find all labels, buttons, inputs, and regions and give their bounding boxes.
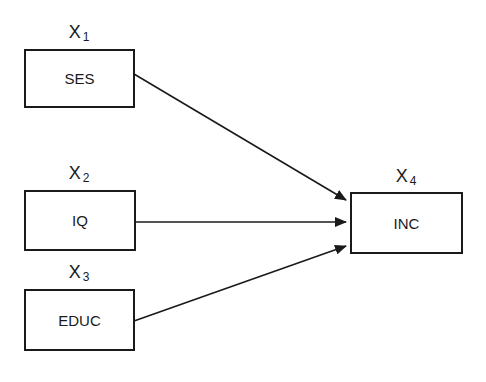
var-subscript: 3 [83, 270, 90, 284]
variable-label-x4: X4 [376, 166, 436, 188]
node-iq: IQ [24, 190, 136, 251]
var-subscript: 1 [83, 30, 90, 44]
var-symbol: X [69, 163, 81, 183]
var-symbol: X [396, 166, 408, 186]
node-label: EDUC [58, 312, 101, 329]
edge-educ-inc [134, 246, 346, 321]
edge-ses-inc [134, 74, 346, 200]
node-label: INC [394, 215, 420, 232]
node-ses: SES [24, 49, 135, 108]
var-symbol: X [69, 22, 81, 42]
node-educ: EDUC [24, 289, 135, 351]
var-symbol: X [69, 262, 81, 282]
node-label: SES [64, 70, 94, 87]
var-subscript: 4 [410, 174, 417, 188]
variable-label-x3: X3 [49, 262, 109, 284]
node-inc: INC [350, 192, 463, 254]
var-subscript: 2 [83, 171, 90, 185]
node-label: IQ [72, 212, 88, 229]
variable-label-x2: X2 [49, 163, 109, 185]
variable-label-x1: X1 [49, 22, 109, 44]
